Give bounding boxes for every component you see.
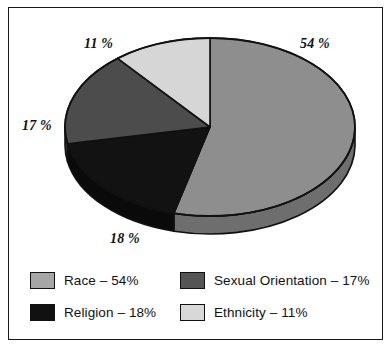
- callout-sexual-orientation: 17 %: [22, 118, 52, 134]
- legend-swatch-ethnicity: [180, 304, 205, 321]
- legend-item-sexual-orientation: Sexual Orientation – 17%: [180, 272, 366, 289]
- legend-item-ethnicity: Ethnicity – 11%: [180, 304, 366, 321]
- legend-label-ethnicity: Ethnicity – 11%: [214, 305, 308, 320]
- chart-legend: Race – 54% Sexual Orientation – 17% Reli…: [30, 264, 366, 328]
- legend-item-race: Race – 54%: [30, 272, 180, 289]
- callout-race: 54 %: [300, 36, 330, 52]
- legend-item-religion: Religion – 18%: [30, 304, 180, 321]
- pie-chart-area: [0, 0, 392, 250]
- legend-swatch-sexual-orientation: [180, 272, 205, 289]
- pie-chart-figure: 54 % 11 % 17 % 18 % Race – 54% Sexual Or…: [0, 0, 392, 353]
- legend-swatch-religion: [30, 304, 55, 321]
- legend-swatch-race: [30, 272, 55, 289]
- callout-religion: 18 %: [110, 231, 140, 247]
- legend-label-sexual-orientation: Sexual Orientation – 17%: [214, 273, 370, 288]
- legend-label-religion: Religion – 18%: [64, 305, 156, 320]
- pie-chart-svg: [0, 0, 392, 250]
- callout-ethnicity: 11 %: [84, 36, 113, 52]
- legend-label-race: Race – 54%: [64, 273, 139, 288]
